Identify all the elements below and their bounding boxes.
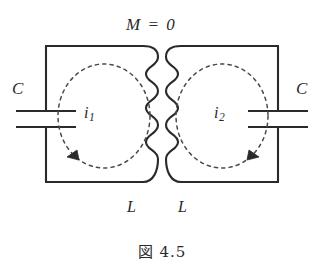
right-circuit-loop xyxy=(166,46,308,182)
circuit-diagram xyxy=(0,0,324,270)
inductor-left-label: L xyxy=(127,199,136,215)
figure-container: M = 0 C C i1 i2 L L 図 4.5 xyxy=(0,0,324,270)
current-left-subscript: 1 xyxy=(88,111,94,123)
current-arrow-left xyxy=(67,150,79,160)
capacitor-right-label: C xyxy=(296,80,307,97)
capacitor-left-label: C xyxy=(12,80,23,97)
current-loop-left xyxy=(58,64,150,168)
current-arrow-right xyxy=(247,150,259,160)
inductor-right xyxy=(166,46,181,182)
current-left-label: i1 xyxy=(84,105,95,124)
capacitor-left xyxy=(16,111,76,127)
inductor-right-label: L xyxy=(178,199,187,215)
current-right-subscript: 2 xyxy=(218,111,224,123)
current-right-label: i2 xyxy=(214,105,225,124)
mutual-inductance-label: M = 0 xyxy=(126,16,176,33)
capacitor-right xyxy=(248,111,308,127)
figure-caption: 図 4.5 xyxy=(0,240,324,261)
